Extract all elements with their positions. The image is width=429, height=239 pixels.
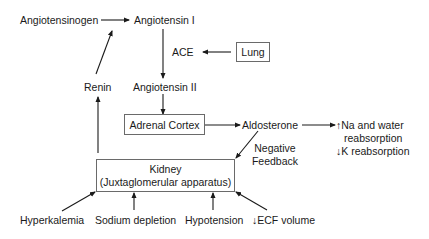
node-angiotensin-2: Angiotensin II <box>133 81 197 93</box>
stimulus-hyperkalemia: Hyperkalemia <box>20 214 84 226</box>
node-kidney-line1: Kidney <box>97 163 234 175</box>
node-lung-label: Lung <box>237 46 269 58</box>
stimulus-hypotension: Hypotension <box>185 214 243 226</box>
node-aldosterone: Aldosterone <box>242 119 298 131</box>
node-angiotensinogen: Angiotensinogen <box>20 14 98 26</box>
effect-na-line1: Na and water <box>341 119 403 131</box>
arrow-hyperkalemia-to-kidney <box>62 192 95 211</box>
effect-na-line2: reabsorption <box>344 132 402 144</box>
node-angiotensin-1: Angiotensin I <box>134 14 195 26</box>
effect-k-label: K reabsorption <box>341 145 409 157</box>
node-kidney-box: Kidney (Juxtaglomerular apparatus) <box>96 159 235 192</box>
stimulus-sodium-depletion: Sodium depletion <box>95 214 176 226</box>
negative-feedback-line2: Feedback <box>250 155 300 167</box>
node-kidney-line2: (Juxtaglomerular apparatus) <box>97 176 234 188</box>
effect-k: ↓K reabsorption <box>336 145 410 157</box>
stimulus-ecf-volume: ↓ECF volume <box>252 214 315 226</box>
node-ace-enzyme: ACE <box>172 46 194 58</box>
node-renin: Renin <box>84 81 111 93</box>
node-adrenal-cortex-label: Adrenal Cortex <box>125 119 204 131</box>
arrow-ecf-to-kidney <box>236 192 267 210</box>
negative-feedback-line1: Negative <box>250 142 300 154</box>
node-lung-box: Lung <box>236 42 270 62</box>
arrow-renin-to-angiotensin1 <box>96 31 112 74</box>
effect-na-water: ↑Na and water <box>336 119 404 131</box>
stimulus-ecf-label: ECF volume <box>257 214 315 226</box>
node-adrenal-cortex-box: Adrenal Cortex <box>124 114 205 135</box>
